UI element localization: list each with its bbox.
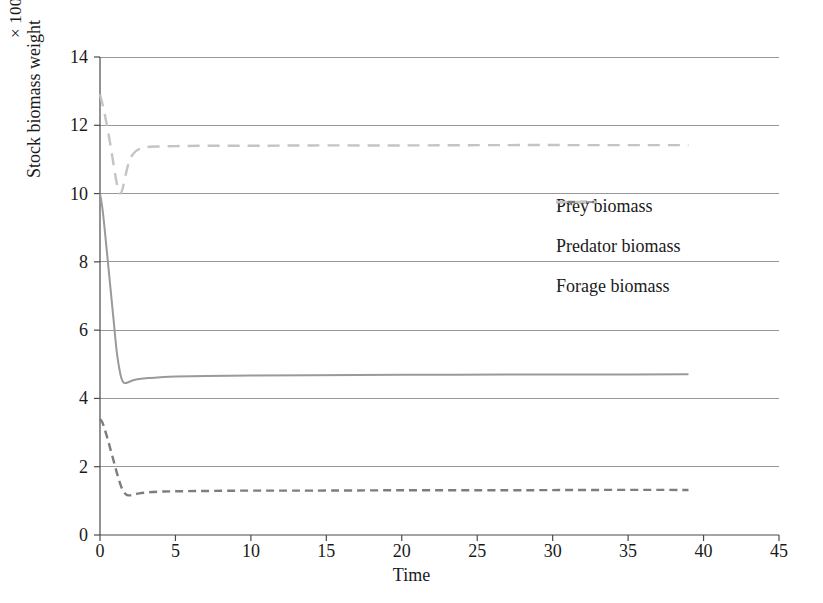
legend-label-predator: Predator biomass [556,236,680,257]
series-line-forage-biomass [100,95,688,194]
tick-marks [94,57,779,541]
legend: Prey biomass Predator biomass Forage bio… [556,196,680,297]
legend-swatch-forage [556,196,596,208]
legend-item-predator: Predator biomass [556,236,680,257]
legend-item-forage: Forage biomass [556,276,680,297]
legend-label-forage: Forage biomass [556,276,669,297]
plot-area [0,0,823,603]
chart-container: × 100000 Stock biomass weight Time 02468… [0,0,823,603]
series-line-predator-biomass [100,419,688,495]
